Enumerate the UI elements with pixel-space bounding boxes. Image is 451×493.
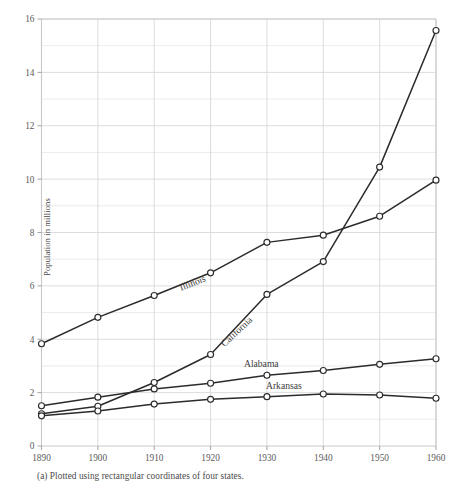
svg-text:8: 8 [30, 228, 35, 238]
data-point-alabama-1940 [320, 367, 326, 373]
svg-text:1940: 1940 [314, 453, 333, 463]
data-point-alabama-1890 [39, 403, 45, 409]
svg-text:2: 2 [30, 388, 35, 398]
data-point-illinois-1950 [377, 213, 383, 219]
data-point-arkansas-1920 [208, 396, 214, 402]
svg-text:1910: 1910 [145, 453, 164, 463]
data-point-california-1930 [264, 291, 270, 297]
data-point-illinois-1930 [264, 239, 270, 245]
svg-text:1920: 1920 [201, 453, 220, 463]
series-lines-group [42, 30, 437, 415]
y-axis-tick-labels: 0246810121416 [25, 14, 35, 451]
svg-text:1960: 1960 [427, 453, 446, 463]
svg-text:6: 6 [30, 281, 35, 291]
data-point-arkansas-1950 [377, 392, 383, 398]
axis-tick-marks [38, 19, 437, 450]
data-point-arkansas-1940 [320, 391, 326, 397]
svg-text:4: 4 [30, 335, 35, 345]
svg-text:1930: 1930 [258, 453, 277, 463]
data-point-california-1960 [433, 27, 439, 33]
data-point-illinois-1910 [151, 292, 157, 298]
svg-text:1950: 1950 [370, 453, 389, 463]
series-label-alabama: Alabama [244, 358, 279, 369]
svg-text:1900: 1900 [89, 453, 108, 463]
data-point-alabama-1920 [208, 380, 214, 386]
data-point-arkansas-1960 [433, 395, 439, 401]
data-point-arkansas-1910 [151, 401, 157, 407]
data-point-alabama-1960 [433, 356, 439, 362]
data-point-alabama-1910 [151, 386, 157, 392]
series-markers-group [39, 27, 440, 418]
series-inline-labels: IllinoisCaliforniaAlabamaArkansas [178, 273, 302, 391]
data-point-california-1940 [320, 259, 326, 265]
svg-text:14: 14 [25, 68, 35, 78]
series-label-arkansas: Arkansas [266, 380, 302, 391]
data-point-california-1950 [377, 164, 383, 170]
data-point-arkansas-1900 [95, 408, 101, 414]
series-line-california [42, 30, 437, 413]
series-label-illinois: Illinois [178, 273, 208, 293]
x-axis-tick-labels: 18901900191019201930194019501960 [32, 453, 445, 463]
svg-text:10: 10 [25, 175, 35, 185]
figure-caption: (a) Plotted using rectangular coordinate… [37, 471, 244, 481]
svg-text:12: 12 [25, 121, 35, 131]
population-line-chart: 0246810121416 18901900191019201930194019… [0, 0, 451, 493]
data-point-illinois-1920 [208, 270, 214, 276]
svg-text:16: 16 [25, 14, 35, 24]
data-point-california-1910 [151, 379, 157, 385]
data-point-alabama-1950 [377, 361, 383, 367]
data-point-alabama-1930 [264, 372, 270, 378]
data-point-alabama-1900 [95, 394, 101, 400]
data-point-illinois-1940 [320, 232, 326, 238]
svg-text:1890: 1890 [32, 453, 51, 463]
data-point-arkansas-1930 [264, 394, 270, 400]
data-point-arkansas-1890 [39, 413, 45, 419]
figure-container: 0246810121416 18901900191019201930194019… [0, 0, 451, 493]
series-label-california: California [218, 314, 254, 349]
data-point-illinois-1890 [39, 341, 45, 347]
data-point-california-1920 [208, 351, 214, 357]
data-point-illinois-1900 [95, 314, 101, 320]
svg-text:0: 0 [30, 441, 35, 451]
y-axis-title: Population in millions [42, 157, 52, 317]
data-point-illinois-1960 [433, 177, 439, 183]
